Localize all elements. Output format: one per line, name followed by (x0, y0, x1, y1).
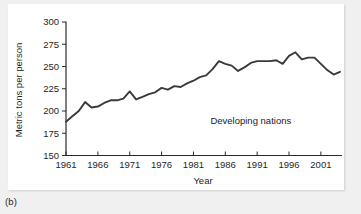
y-axis-title: Metric tons per person (13, 43, 24, 138)
x-tick-label: 1981 (183, 159, 204, 170)
y-tick-label: 200 (43, 105, 59, 116)
y-tick-label: 250 (43, 61, 59, 72)
y-tick-label: 275 (43, 39, 59, 50)
x-tick-label: 1986 (215, 159, 236, 170)
x-tick-label: 1991 (247, 159, 268, 170)
x-axis-title: Year (193, 175, 212, 186)
figure-container: 150175200225250275300 196119661971197619… (0, 0, 361, 214)
line-chart: 150175200225250275300 196119661971197619… (0, 0, 361, 214)
x-tick-label: 1961 (55, 159, 76, 170)
x-tick-label: 1976 (151, 159, 172, 170)
x-tick-label: 1966 (87, 159, 108, 170)
x-tick-label: 2001 (310, 159, 331, 170)
data-series (66, 52, 340, 121)
y-tick-label: 225 (43, 83, 59, 94)
y-tick-label: 300 (43, 16, 59, 27)
series-annotation: Developing nations (210, 115, 291, 126)
x-axis: 196119661971197619811986199119962001 (55, 152, 342, 170)
y-tick-label: 175 (43, 128, 59, 139)
y-axis: 150175200225250275300 (43, 16, 66, 161)
x-tick-label: 1996 (278, 159, 299, 170)
x-tick-label: 1971 (119, 159, 140, 170)
series-line-developing-nations (66, 52, 340, 121)
figure-caption: (b) (5, 196, 17, 207)
